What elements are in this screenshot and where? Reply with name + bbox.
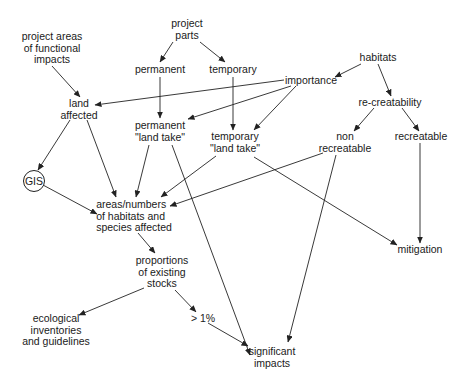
node-permanent-land-take: permanent "land take" — [135, 120, 185, 143]
node-mitigation: mitigation — [398, 244, 443, 256]
gis-label: GIS — [25, 175, 43, 187]
node-habitats: habitats — [360, 52, 397, 64]
node-project-parts: project parts — [171, 18, 203, 41]
node-gis: GIS — [23, 170, 45, 192]
node-temporary: temporary — [209, 64, 256, 76]
node-temporary-land-take: temporary "land take" — [210, 131, 260, 154]
node-permanent: permanent — [135, 64, 185, 76]
node-land-affected: land affected — [60, 98, 97, 121]
node-non-recreatable: non recreatable — [319, 131, 372, 154]
node-importance: importance — [285, 75, 337, 87]
node-areas-numbers: areas/numbers of habitats and species af… — [96, 199, 172, 234]
node-gt-1-percent: > 1% — [191, 313, 215, 325]
node-significant-impacts: significant impacts — [249, 346, 296, 369]
node-ecological-inventories: ecological inventories and guidelines — [22, 313, 90, 348]
node-re-creatability: re-creatability — [358, 97, 421, 109]
node-recreatable: recreatable — [395, 131, 448, 143]
node-proportions: proportions of existing stocks — [136, 255, 189, 290]
node-project-areas: project areas of functional impacts — [22, 31, 83, 66]
